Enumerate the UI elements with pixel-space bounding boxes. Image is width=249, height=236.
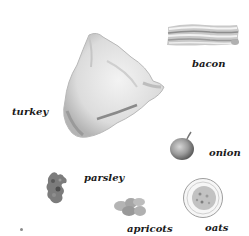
ingredients-illustration: bacon turkey xyxy=(0,0,249,236)
oats-label: oats xyxy=(205,223,228,233)
parsley-sprig-icon xyxy=(44,171,70,205)
turkey-label: turkey xyxy=(12,107,48,117)
oats-bowl-icon xyxy=(182,177,224,219)
onion-label: onion xyxy=(209,148,241,158)
onion-icon xyxy=(169,131,197,161)
dried-apricots-icon xyxy=(113,196,147,218)
stray-dot xyxy=(20,228,23,231)
bacon-strips-icon xyxy=(165,21,241,49)
apricots-label: apricots xyxy=(127,224,173,234)
whole-turkey-icon xyxy=(57,31,165,139)
bacon-label: bacon xyxy=(192,59,226,69)
parsley-label: parsley xyxy=(84,173,124,183)
